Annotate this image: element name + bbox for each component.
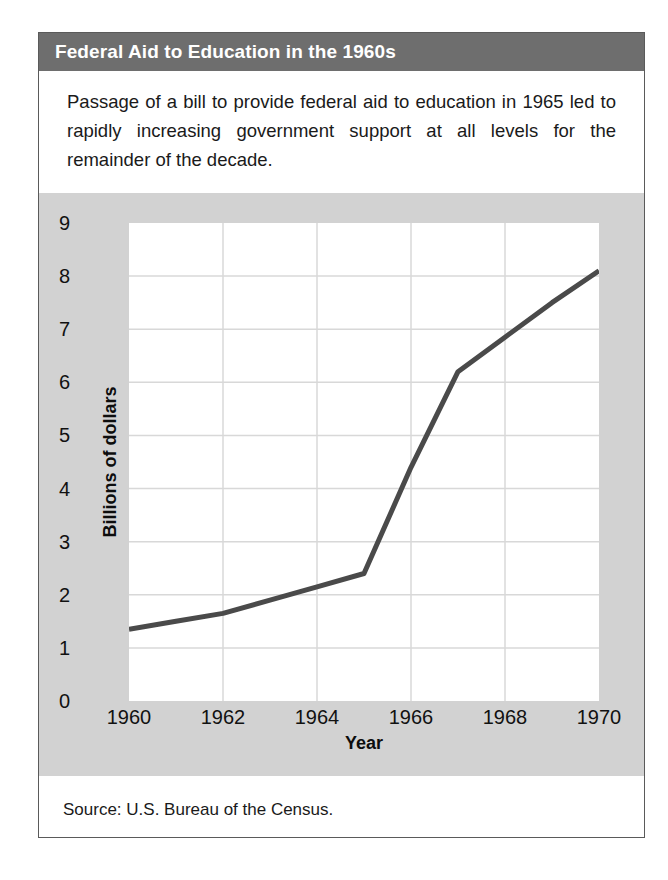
line-chart-svg (129, 223, 599, 701)
y-axis-tick-label: 4 (38, 477, 70, 500)
figure-description-block: Passage of a bill to provide federal aid… (39, 71, 644, 193)
x-axis-tick-label: 1960 (94, 706, 164, 729)
y-axis-label: Billions of dollars (100, 386, 121, 537)
data-series-line (129, 271, 599, 630)
chart-panel: Billions of dollars Year 0123456789 1960… (39, 193, 644, 776)
x-axis-tick-label: 1970 (564, 706, 634, 729)
figure-title-band: Federal Aid to Education in the 1960s (39, 33, 644, 71)
y-axis-tick-label: 7 (38, 318, 70, 341)
x-axis-tick-label: 1966 (376, 706, 446, 729)
figure-description: Passage of a bill to provide federal aid… (67, 87, 616, 174)
y-axis-tick-label: 8 (38, 265, 70, 288)
vertical-gridlines (223, 223, 505, 701)
x-axis-tick-label: 1962 (188, 706, 258, 729)
y-axis-tick-label: 2 (38, 583, 70, 606)
y-axis-tick-label: 6 (38, 371, 70, 394)
plot-area (129, 223, 599, 701)
figure-card: Federal Aid to Education in the 1960s Pa… (38, 32, 645, 838)
y-axis-tick-label: 9 (38, 212, 70, 235)
y-axis-tick-label: 1 (38, 636, 70, 659)
y-axis-tick-label: 0 (38, 690, 70, 713)
horizontal-gridlines (129, 276, 599, 648)
y-axis-tick-label: 5 (38, 424, 70, 447)
figure-title: Federal Aid to Education in the 1960s (55, 41, 396, 63)
x-axis-tick-label: 1968 (470, 706, 540, 729)
y-axis-tick-label: 3 (38, 530, 70, 553)
x-axis-label: Year (129, 733, 599, 754)
source-footer: Source: U.S. Bureau of the Census. (39, 776, 644, 838)
x-axis-tick-label: 1964 (282, 706, 352, 729)
source-text: Source: U.S. Bureau of the Census. (63, 800, 333, 820)
